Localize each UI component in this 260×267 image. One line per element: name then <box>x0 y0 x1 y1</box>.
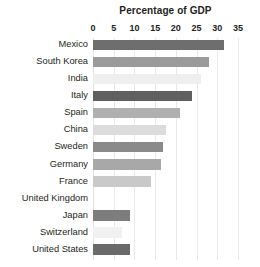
x-tick-label-20: 20 <box>171 23 181 34</box>
bar-row: South Korea <box>93 55 238 72</box>
category-label-united-kingdom: United Kingdom <box>0 192 88 206</box>
category-label-china: China <box>0 123 88 137</box>
bar-row: China <box>93 123 238 140</box>
category-label-india: India <box>0 72 88 86</box>
category-label-spain: Spain <box>0 106 88 120</box>
x-tick-label-35: 35 <box>233 23 243 34</box>
bar-india <box>93 74 201 85</box>
bar-row: United Kingdom <box>93 192 238 209</box>
category-label-italy: Italy <box>0 89 88 103</box>
bar-row: Mexico <box>93 38 238 55</box>
bar-mexico <box>93 40 224 51</box>
bar-rows: MexicoSouth KoreaIndiaItalySpainChinaSwe… <box>93 38 238 260</box>
bar-row: Italy <box>93 89 238 106</box>
x-tick-label-15: 15 <box>150 23 160 34</box>
category-label-france: France <box>0 175 88 189</box>
bar-china <box>93 125 166 136</box>
bar-spain <box>93 108 180 119</box>
x-tick-label-30: 30 <box>212 23 222 34</box>
bar-south-korea <box>93 57 209 68</box>
x-tick-label-25: 25 <box>192 23 202 34</box>
bar-row: Spain <box>93 106 238 123</box>
category-label-sweden: Sweden <box>0 140 88 154</box>
bar-japan <box>93 210 130 221</box>
category-label-united-states: United States <box>0 243 88 257</box>
bar-united-states <box>93 244 130 255</box>
bar-italy <box>93 91 192 102</box>
bar-sweden <box>93 142 163 153</box>
gridline-35 <box>238 38 239 260</box>
bar-switzerland <box>93 227 122 238</box>
bar-germany <box>93 159 161 170</box>
x-tick-label-5: 5 <box>111 23 116 34</box>
plot-area: MexicoSouth KoreaIndiaItalySpainChinaSwe… <box>93 38 238 260</box>
bar-row: United States <box>93 243 238 260</box>
x-tick-label-0: 0 <box>90 23 95 34</box>
category-label-south-korea: South Korea <box>0 55 88 69</box>
x-tick-label-10: 10 <box>129 23 139 34</box>
category-label-japan: Japan <box>0 209 88 223</box>
bar-row: France <box>93 175 238 192</box>
bar-row: Sweden <box>93 140 238 157</box>
x-axis-tick-labels: 05101520253035 <box>0 23 260 35</box>
bar-row: Germany <box>93 158 238 175</box>
category-label-germany: Germany <box>0 158 88 172</box>
chart-title: Percentage of GDP <box>93 5 238 16</box>
category-label-switzerland: Switzerland <box>0 226 88 240</box>
bar-row: Switzerland <box>93 226 238 243</box>
bar-row: India <box>93 72 238 89</box>
bar-france <box>93 176 151 187</box>
bar-row: Japan <box>93 209 238 226</box>
bar-chart: Percentage of GDP 05101520253035 MexicoS… <box>0 0 260 267</box>
category-label-mexico: Mexico <box>0 38 88 52</box>
